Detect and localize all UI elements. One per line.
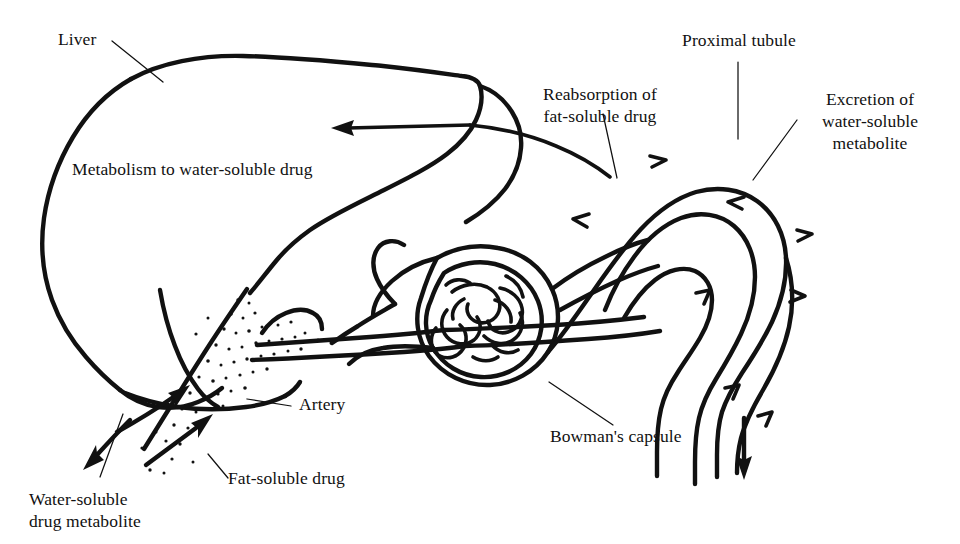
label-bowmans-capsule: Bowman's capsule — [550, 425, 682, 447]
diagram-artwork: .ink { fill:none; stroke:#111111; stroke… — [0, 0, 960, 544]
label-liver: Liver — [58, 28, 96, 50]
metabolite-return-arrow — [331, 120, 470, 136]
artery-inflow-arrow-lower — [146, 414, 213, 465]
leader-excretion — [753, 120, 797, 180]
leader-fat-soluble-drug — [208, 454, 228, 478]
tubule-flow-arrow-mid — [728, 197, 744, 209]
label-fat-soluble-drug: Fat-soluble drug — [228, 467, 345, 489]
metabolite-outflow-arrow — [83, 420, 130, 470]
tubule-reabsorption-arrow — [573, 214, 589, 227]
tubule-flow-arrow-descend — [696, 290, 710, 304]
stippled-vessel-region — [125, 289, 465, 475]
label-artery: Artery — [299, 393, 345, 415]
tubule-flow-arrow-right — [797, 230, 812, 241]
label-reabsorption: Reabsorption of fat-soluble drug — [525, 83, 675, 127]
leader-lines — [100, 41, 797, 478]
tubule-flow-arrow-bottom — [758, 412, 772, 426]
tubule-flow-arrow-top — [650, 156, 666, 167]
label-water-soluble-metabolite: Water-soluble drug metabolite — [29, 488, 141, 532]
leader-bowmans-capsule — [549, 382, 613, 425]
label-excretion: Excretion of water-soluble metabolite — [795, 88, 945, 154]
diagram-figure: .ink { fill:none; stroke:#111111; stroke… — [0, 0, 960, 544]
label-metabolism: Metabolism to water-soluble drug — [72, 158, 313, 180]
label-proximal-tubule: Proximal tubule — [660, 29, 818, 51]
vessel-stub — [332, 241, 404, 343]
